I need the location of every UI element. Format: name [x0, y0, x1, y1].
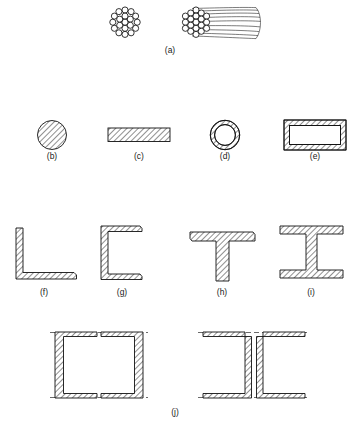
- caption-c: (c): [134, 151, 144, 161]
- caption-b: (b): [47, 151, 58, 161]
- built-up-box-toe-to-toe: [50, 332, 148, 398]
- figure-container: (a) (b) (c) (d) (e): [0, 0, 359, 429]
- cross-sections-figure: (a) (b) (c) (d) (e): [0, 0, 359, 429]
- caption-h: (h): [217, 287, 228, 297]
- caption-f: (f): [40, 287, 48, 297]
- caption-e: (e): [310, 151, 321, 161]
- caption-i: (i): [307, 287, 315, 297]
- caption-j: (j): [171, 407, 179, 417]
- caption-d: (d): [220, 151, 231, 161]
- item-i-i-beam-section: (i): [280, 226, 343, 297]
- item-d-round-tube: (d): [210, 120, 239, 161]
- cable-cross-section: [110, 7, 141, 38]
- cable-pictorial-view: [182, 7, 260, 39]
- item-c-flat-bar: (c): [108, 128, 170, 161]
- caption-a: (a): [165, 45, 176, 55]
- item-h-tee-section: (h): [190, 232, 255, 297]
- item-g-channel-section: (g): [101, 226, 142, 297]
- item-f-angle-section: (f): [16, 228, 77, 297]
- item-e-rectangular-tube: (e): [284, 120, 346, 161]
- caption-g: (g): [117, 287, 128, 297]
- item-b-round-bar: (b): [38, 121, 67, 162]
- cable-end-face: [182, 7, 209, 38]
- built-up-back-to-back: [198, 332, 310, 398]
- item-j-built-up-sections: (j): [50, 332, 310, 417]
- item-a-stranded-cable: (a): [110, 7, 261, 55]
